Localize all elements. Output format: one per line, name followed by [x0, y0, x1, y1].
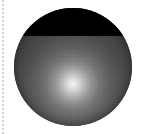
- figure-canvas: [0, 0, 143, 134]
- shaded-sphere-disc: [14, 8, 132, 126]
- dotted-margin-guide-line: [2, 0, 4, 134]
- sphere-terminator-shadow: [14, 8, 132, 36]
